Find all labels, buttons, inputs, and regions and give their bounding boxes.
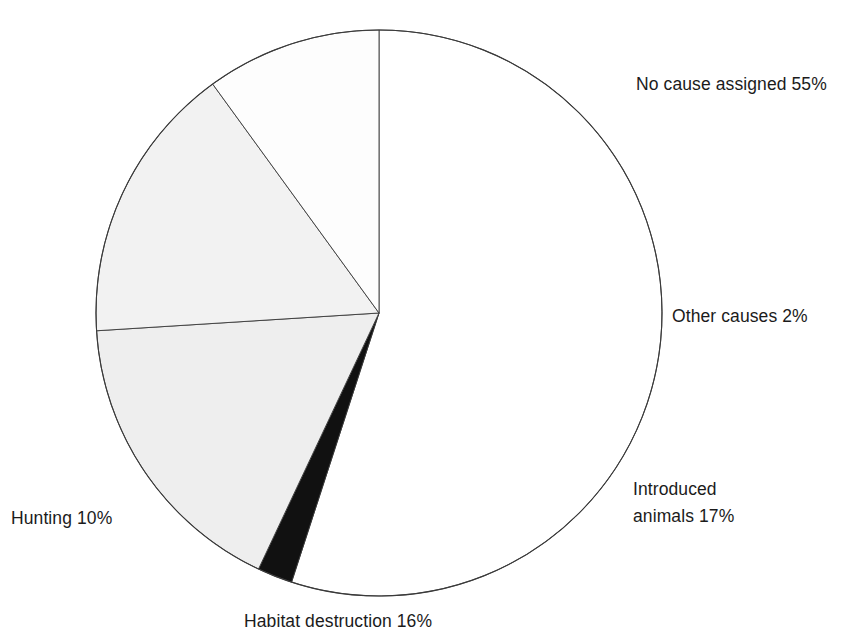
pie-label-introduced-animals: Introduced animals 17% <box>633 476 833 529</box>
pie-label-no-cause-assigned: No cause assigned 55% <box>636 71 827 98</box>
pie-label-hunting: Hunting 10% <box>11 505 112 532</box>
pie-label-introduced-animals-line2: animals 17% <box>633 503 833 530</box>
pie-chart-figure: Causes of recorded animal extinctions No… <box>0 0 843 637</box>
pie-label-habitat-destruction: Habitat destruction 16% <box>244 608 432 635</box>
pie-label-introduced-animals-line1: Introduced <box>633 476 833 503</box>
pie-slice-group: No cause assigned 55%Other causes 2%Intr… <box>96 30 662 596</box>
pie-label-other-causes: Other causes 2% <box>672 303 808 330</box>
